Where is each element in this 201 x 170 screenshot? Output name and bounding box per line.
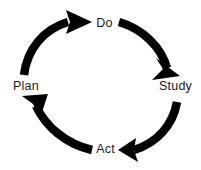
cycle-stage-label-plan: Plan (13, 80, 39, 93)
cycle-stage-label-study: Study (159, 80, 192, 93)
arrow-do-to-study (119, 22, 180, 80)
cycle-stage-label-do: Do (4, 17, 201, 30)
pdsa-cycle-diagram: Do Study Act Plan (0, 0, 201, 170)
cycle-stage-label-act: Act (5, 143, 201, 156)
arrow-act-to-plan (22, 94, 92, 150)
